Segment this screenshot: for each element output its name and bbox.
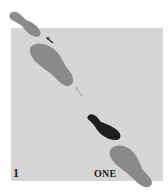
count-label: ONE bbox=[94, 169, 116, 179]
arrow-icon-upper bbox=[46, 37, 53, 43]
arrow-icon-middle bbox=[75, 87, 82, 96]
footprint-lower-full bbox=[110, 146, 152, 188]
step-number: 1 bbox=[13, 167, 19, 179]
footprint-diagram bbox=[0, 0, 168, 195]
footprint-upper-full bbox=[30, 43, 73, 86]
footprint-upper-narrow bbox=[9, 12, 40, 37]
footprint-active-narrow bbox=[87, 114, 120, 140]
